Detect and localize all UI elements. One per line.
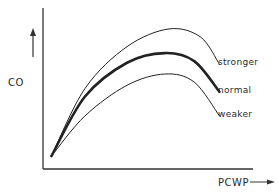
y-arrow-icon [30, 28, 36, 57]
chart: CO PCWP strongernormalweaker [0, 0, 279, 193]
curve-stronger [51, 29, 219, 157]
curve-weaker [51, 74, 219, 156]
x-axis-label: PCWP [218, 177, 249, 188]
curve-normal [51, 53, 219, 156]
curve-label-stronger: stronger [218, 57, 258, 67]
curve-label-normal: normal [218, 85, 251, 95]
curve-label-weaker: weaker [218, 109, 252, 119]
x-arrow-icon [250, 180, 275, 185]
y-axis-label: CO [8, 77, 24, 88]
